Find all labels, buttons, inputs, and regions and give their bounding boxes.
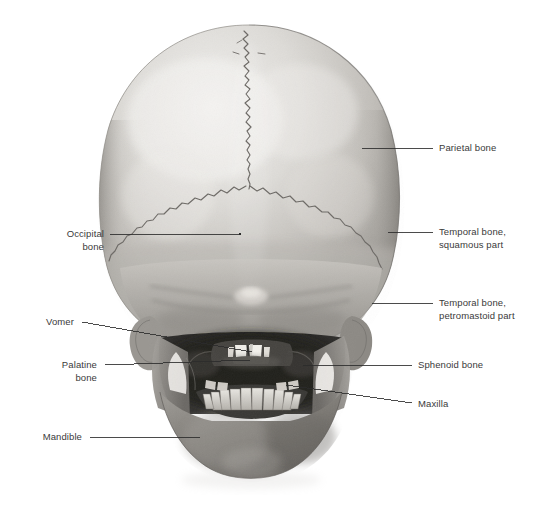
label-parietal-bone: Parietal bone xyxy=(439,141,496,154)
leader-dot-occipital xyxy=(238,232,241,235)
skull-illustration xyxy=(0,0,543,529)
anatomical-figure: Parietal bone Temporal bone, squamous pa… xyxy=(0,0,543,529)
label-occipital-bone: Occipital bone xyxy=(12,227,104,253)
label-temporal-bone-petromastoid-part: Temporal bone, petromastoid part xyxy=(439,296,515,322)
label-maxilla: Maxilla xyxy=(418,397,448,410)
label-temporal-bone-squamous-part: Temporal bone, squamous part xyxy=(439,225,506,251)
label-vomer: Vomer xyxy=(12,315,74,328)
label-palatine-bone: Palatine bone xyxy=(12,358,97,384)
label-sphenoid-bone: Sphenoid bone xyxy=(418,358,483,371)
label-mandible: Mandible xyxy=(12,430,82,443)
